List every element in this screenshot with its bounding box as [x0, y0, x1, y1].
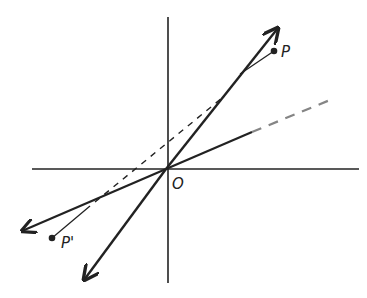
label-P-prime: P'	[61, 234, 74, 252]
shallow-line-upper-faded	[252, 100, 330, 132]
label-origin: O	[172, 175, 184, 193]
point-P-prime	[49, 235, 56, 242]
diagram-canvas: P P' O	[0, 0, 367, 298]
point-P	[271, 48, 278, 55]
label-P: P	[281, 43, 291, 61]
steep-line-upper	[166, 28, 278, 169]
shallow-line-upper	[166, 132, 252, 169]
dashed-connector	[95, 98, 222, 202]
